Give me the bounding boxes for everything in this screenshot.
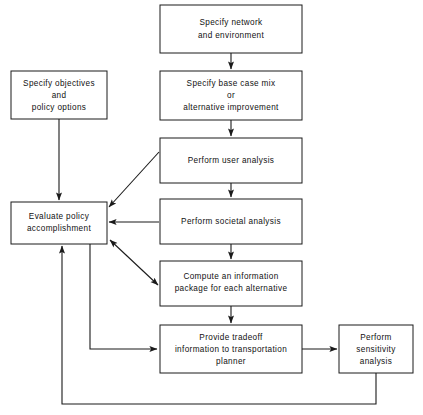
node-perform-societal-analysis-line-0: Perform societal analysis — [181, 217, 281, 226]
node-provide-tradeoff-line-0: Provide tradeoff — [199, 333, 263, 342]
edge-evaluate-to-compute — [110, 240, 158, 285]
node-perform-sensitivity-analysis-line-0: Perform — [360, 333, 392, 342]
node-provide-tradeoff[interactable]: Provide tradeoff information to transpor… — [160, 325, 302, 373]
node-evaluate-policy[interactable]: Evaluate policy accomplishment — [11, 202, 107, 244]
node-specify-objectives[interactable]: Specify objectives and policy options — [11, 71, 107, 119]
node-specify-base-case-line-2: alternative improvement — [183, 103, 279, 112]
flowchart-svg: Specify network and environment Specify … — [0, 0, 423, 415]
node-perform-sensitivity-analysis[interactable]: Perform sensitivity analysis — [339, 325, 413, 373]
node-layer: Specify network and environment Specify … — [11, 5, 413, 373]
node-perform-societal-analysis[interactable]: Perform societal analysis — [160, 199, 302, 244]
node-compute-information-package[interactable]: Compute an information package for each … — [160, 261, 302, 306]
node-specify-network-box[interactable] — [160, 5, 302, 53]
edge-user-to-evaluate — [109, 152, 159, 207]
node-specify-base-case-line-0: Specify base case mix — [187, 79, 276, 88]
node-specify-network[interactable]: Specify network and environment — [160, 5, 302, 53]
node-perform-user-analysis-line-0: Perform user analysis — [188, 156, 275, 165]
node-specify-network-line-1: and environment — [198, 31, 265, 40]
node-evaluate-policy-box[interactable] — [11, 202, 107, 244]
node-compute-information-package-line-0: Compute an information — [183, 272, 278, 281]
node-evaluate-policy-line-1: accomplishment — [27, 224, 91, 233]
node-provide-tradeoff-line-2: planner — [216, 357, 246, 366]
node-specify-objectives-line-2: policy options — [32, 103, 87, 112]
edge-evaluate-to-tradeoff — [90, 244, 157, 349]
node-perform-user-analysis[interactable]: Perform user analysis — [160, 138, 302, 183]
node-perform-sensitivity-analysis-line-1: sensitivity — [356, 345, 396, 354]
node-specify-objectives-line-0: Specify objectives — [23, 79, 95, 88]
node-perform-sensitivity-analysis-line-2: analysis — [360, 357, 392, 366]
flowchart-canvas: Specify network and environment Specify … — [0, 0, 423, 415]
node-provide-tradeoff-line-1: information to transportation — [175, 345, 287, 354]
node-specify-base-case-line-1: or — [227, 91, 235, 100]
node-specify-objectives-line-1: and — [52, 91, 67, 100]
node-evaluate-policy-line-0: Evaluate policy — [29, 212, 90, 221]
node-compute-information-package-line-1: package for each alternative — [175, 284, 288, 293]
node-specify-base-case[interactable]: Specify base case mix or alternative imp… — [160, 71, 302, 120]
node-specify-network-line-0: Specify network — [199, 18, 263, 27]
